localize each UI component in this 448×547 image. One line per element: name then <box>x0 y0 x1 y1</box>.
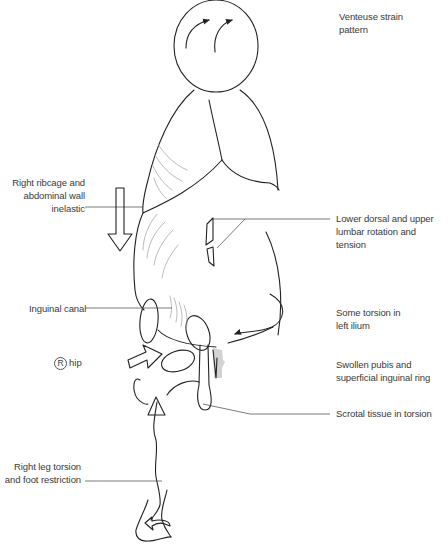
title-label: Venteuse strain pattern <box>339 10 403 36</box>
ribcage <box>143 90 279 213</box>
abdomen <box>134 213 281 335</box>
right-marker-icon: R <box>54 357 67 370</box>
label-lumbar: Lower dorsal and upper lumbar rotation a… <box>336 212 448 251</box>
label-hip: Rhip <box>54 357 82 370</box>
right-hip <box>128 345 199 404</box>
pelvis <box>138 294 283 410</box>
head <box>174 0 258 92</box>
label-pubis: Swollen pubis and superficial inguinal r… <box>336 358 430 384</box>
label-scrotal: Scrotal tissue in torsion <box>336 407 432 420</box>
right-leg <box>136 397 171 541</box>
label-ilium: Some torsion in left ilium <box>336 306 401 332</box>
label-inguinal-canal: Inguinal canal <box>29 302 86 315</box>
label-leg: Right leg torsion and foot restriction <box>0 460 81 486</box>
down-arrow-icon <box>108 188 132 251</box>
label-ribcage: Right ribcage and abdominal wall inelast… <box>0 176 85 215</box>
